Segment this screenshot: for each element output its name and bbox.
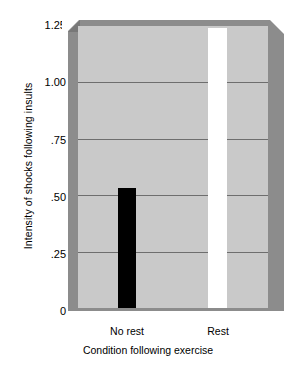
x-tick-label-rest: Rest <box>207 325 229 337</box>
y-tick-label: 1.00 <box>14 77 66 88</box>
x-axis-tick-labels: No rest Rest <box>62 325 284 341</box>
x-axis-title: Condition following exercise <box>0 344 296 356</box>
gridline-0-50 <box>78 195 268 196</box>
bar-rest <box>208 28 227 308</box>
plot-area <box>78 26 268 308</box>
gridline-0-25 <box>78 252 268 253</box>
y-tick-label: .75 <box>14 135 66 146</box>
y-tick-label: .25 <box>14 249 66 260</box>
y-tick-label: 0 <box>14 306 66 317</box>
bar-no-rest <box>118 188 136 308</box>
bar-chart-figure: Intensity of shocks following insults 1.… <box>0 0 296 369</box>
gridline-1-00 <box>78 82 268 83</box>
y-tick-label: 1.25 <box>14 20 66 31</box>
x-tick-label-no-rest: No rest <box>110 325 144 337</box>
y-axis-tick-labels: 1.25 1.00 .75 .50 .25 0 <box>14 0 66 369</box>
y-tick-label: .50 <box>14 192 66 203</box>
gridline-0-75 <box>78 139 268 140</box>
plot-frame <box>62 20 284 317</box>
